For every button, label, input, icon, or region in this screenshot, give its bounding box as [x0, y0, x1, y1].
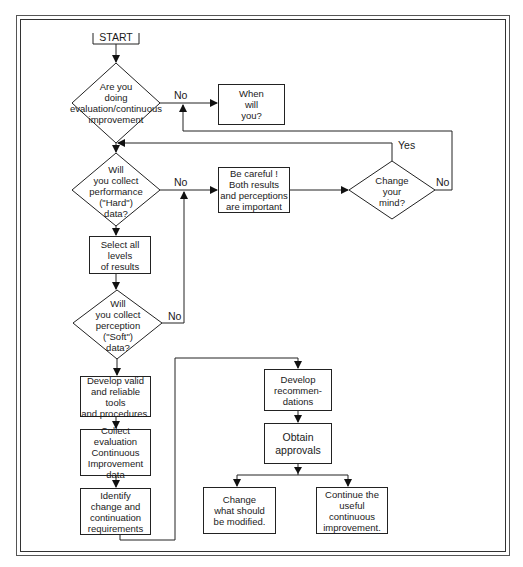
- decision-hard-data: Will you collect performance ("Hard") da…: [80, 160, 152, 222]
- process-develop-tools: Develop valid and reliable tools and pro…: [80, 376, 151, 417]
- process-select-levels: Select all levels of results: [89, 236, 151, 274]
- edge-label-change-mind-no: No: [436, 176, 449, 188]
- decision-soft-data: Will you collect perception ("Soft") dat…: [82, 294, 154, 356]
- decision-change-mind: Change your mind?: [362, 172, 422, 210]
- process-obtain-approvals: Obtain approvals: [264, 423, 332, 464]
- process-change-modify: Change what should be modified.: [203, 487, 276, 534]
- process-collect-data: Collect evaluation Continuous Improvemen…: [80, 429, 151, 476]
- edge-label-change-mind-yes: Yes: [398, 139, 415, 151]
- process-develop-recommendations: Develop recommen- dations: [264, 369, 332, 411]
- process-continue-improvement: Continue the useful continuous improveme…: [316, 487, 388, 534]
- process-be-careful: Be careful ! Both results and perception…: [218, 167, 290, 213]
- edge-label-soft-data-no: No: [168, 310, 181, 322]
- edge-label-doing-eval-no: No: [174, 89, 187, 101]
- start-terminator: START: [93, 31, 139, 43]
- decision-doing-eval: Are you doing evaluation/continuous impr…: [72, 78, 160, 128]
- process-identify-requirements: Identify change and continuation require…: [80, 488, 151, 535]
- process-when-will-you: When will you?: [218, 84, 285, 125]
- edge-label-hard-data-no: No: [174, 176, 187, 188]
